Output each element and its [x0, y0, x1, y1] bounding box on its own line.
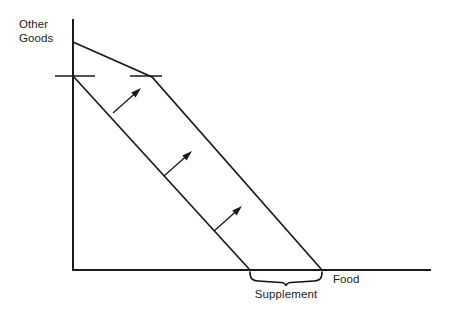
- supplement-label: Supplement: [250, 287, 322, 301]
- diagram-canvas: OtherGoods Food Supplement: [0, 0, 454, 318]
- shift-arrow-1: [113, 88, 141, 113]
- y-axis-label-line1: Other: [19, 18, 48, 30]
- original-budget-line: [73, 76, 250, 270]
- y-axis-label: OtherGoods: [19, 17, 53, 45]
- new-budget-line: [73, 42, 322, 270]
- budget-constraint-figure: [0, 0, 454, 318]
- shift-arrow-2: [164, 151, 192, 176]
- y-axis-label-line2: Goods: [19, 32, 53, 44]
- x-axis-label: Food: [333, 272, 360, 286]
- supplement-brace: [250, 272, 322, 286]
- shift-arrow-3: [214, 206, 242, 231]
